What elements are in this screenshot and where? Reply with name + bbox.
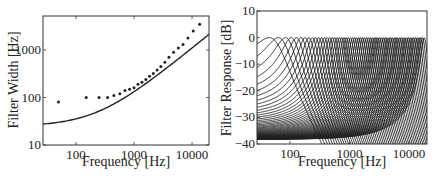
data-marker: [85, 96, 88, 99]
left-plot-area: [43, 23, 209, 124]
y-tick-label: −40: [235, 136, 255, 151]
data-marker: [177, 47, 180, 50]
data-marker: [124, 89, 127, 92]
data-marker: [186, 36, 189, 39]
right-x-axis-label: Frequency [Hz]: [298, 154, 386, 169]
data-marker: [128, 88, 131, 91]
y-tick-label: 10: [28, 137, 41, 152]
figure: 100100010000 101001000 Frequency [Hz] Fi…: [0, 0, 437, 180]
x-tick-label: 10000: [176, 147, 209, 162]
data-marker: [57, 101, 60, 104]
x-tick-label: 10000: [393, 146, 426, 161]
data-marker: [118, 92, 121, 95]
data-marker: [112, 94, 115, 97]
data-marker: [133, 86, 136, 89]
data-marker: [192, 30, 195, 33]
data-marker: [182, 43, 185, 46]
y-tick-label: 100: [22, 90, 42, 105]
right-plot-area: [257, 38, 427, 158]
data-marker: [148, 75, 151, 78]
filter-response-chart: 100100010000 100−10−20−30−40 Frequency […: [219, 3, 427, 169]
data-marker: [198, 23, 201, 26]
left-x-axis-label: Frequency [Hz]: [82, 154, 170, 169]
data-marker: [140, 81, 143, 84]
left-y-axis-label: Filter Width [Hz]: [6, 31, 21, 128]
y-tick-label: −10: [235, 56, 255, 71]
data-marker: [152, 72, 155, 75]
data-marker: [163, 61, 166, 64]
erb-curve: [43, 34, 209, 124]
data-marker: [159, 65, 162, 68]
y-tick-label: 10: [242, 3, 255, 18]
data-marker: [98, 96, 101, 99]
data-marker: [106, 96, 109, 99]
y-tick-label: 0: [249, 30, 256, 45]
data-marker: [144, 78, 147, 81]
x-tick-label: 100: [280, 146, 300, 161]
data-marker: [136, 83, 139, 86]
y-tick-label: −30: [235, 109, 255, 124]
filter-width-chart: 100100010000 101001000 Frequency [Hz] Fi…: [6, 16, 209, 169]
left-axes-frame: [43, 16, 209, 145]
right-y-ticks: 100−10−20−30−40: [235, 3, 260, 151]
data-marker: [172, 51, 175, 54]
data-marker: [156, 68, 159, 71]
data-marker: [167, 56, 170, 59]
right-y-axis-label: Filter Response [dB]: [219, 20, 234, 137]
y-tick-label: −20: [235, 83, 255, 98]
